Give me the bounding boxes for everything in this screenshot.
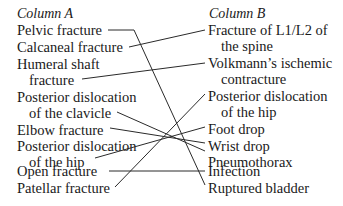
line-pelvic-to-bladder xyxy=(108,30,205,185)
line-calcaneal-to-l1l2 xyxy=(129,30,205,47)
matching-lines xyxy=(0,0,343,206)
line-humeral-to-volkmann xyxy=(82,63,205,79)
line-hip-to-footdrop xyxy=(95,127,205,158)
